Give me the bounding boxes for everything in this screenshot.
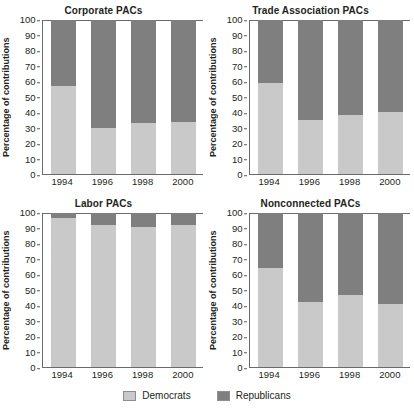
x-tick-label: 1996 [297, 368, 322, 382]
chart-legend: DemocratsRepublicans [0, 390, 414, 401]
y-tick-label: 100 [227, 208, 247, 218]
y-axis-label: Percentage of contributions [206, 22, 220, 172]
x-tick-label: 2000 [170, 368, 195, 382]
y-tick-label: 0 [237, 363, 247, 373]
x-axis-ticks: 1994199619982000 [249, 368, 410, 384]
y-tick-label: 10 [25, 348, 40, 358]
y-tick-label: 90 [25, 224, 40, 234]
bar-segment-republicans [91, 20, 116, 128]
bar-segment-democrats [51, 218, 76, 367]
stacked-bar [258, 213, 283, 367]
y-tick-label: 30 [232, 124, 247, 134]
x-axis-ticks: 1994199619982000 [249, 175, 410, 191]
plot-area: 1009080706050403020100 1994199619982000 [16, 20, 203, 175]
y-axis-ticks: 1009080706050403020100 [16, 20, 40, 175]
stacked-bar [338, 20, 363, 174]
stacked-bar [378, 20, 403, 174]
plot-frame [249, 20, 410, 175]
x-tick-label: 1998 [130, 368, 155, 382]
y-tick-label: 60 [232, 77, 247, 87]
stacked-bar [171, 20, 196, 174]
stacked-bar [298, 20, 323, 174]
legend-label: Democrats [142, 390, 190, 401]
plot-frame [249, 213, 410, 368]
y-tick-label: 80 [232, 46, 247, 56]
x-tick-label: 2000 [170, 175, 195, 189]
y-tick-label: 10 [232, 348, 247, 358]
stacked-bar [338, 213, 363, 367]
stacked-bar [258, 20, 283, 174]
bar-segment-republicans [171, 213, 196, 225]
bar-segment-republicans [338, 213, 363, 295]
panel-corporate-pacs: Corporate PACs Percentage of contributio… [0, 0, 207, 193]
y-axis-ticks: 1009080706050403020100 [223, 20, 247, 175]
y-tick-label: 90 [232, 224, 247, 234]
y-tick-label: 20 [232, 332, 247, 342]
bar-segment-democrats [258, 268, 283, 367]
y-axis-label: Percentage of contributions [0, 22, 13, 172]
bar-segment-democrats [171, 122, 196, 174]
y-tick-label: 30 [232, 317, 247, 327]
bar-segment-democrats [338, 295, 363, 367]
plot-frame [42, 213, 203, 368]
y-tick-label: 20 [25, 139, 40, 149]
bar-segment-republicans [298, 213, 323, 302]
y-tick-label: 0 [30, 363, 40, 373]
bar-segment-republicans [258, 20, 283, 83]
stacked-bar [91, 213, 116, 367]
bar-series [43, 213, 203, 367]
bar-segment-democrats [171, 225, 196, 367]
x-tick-label: 2000 [377, 175, 402, 189]
bar-segment-republicans [378, 20, 403, 112]
bar-segment-republicans [258, 213, 283, 268]
y-tick-label: 80 [25, 46, 40, 56]
y-tick-label: 30 [25, 124, 40, 134]
x-tick-label: 1994 [257, 368, 282, 382]
y-axis-label: Percentage of contributions [206, 215, 220, 365]
bar-segment-democrats [91, 225, 116, 367]
panel-nonconnected-pacs: Nonconnected PACs Percentage of contribu… [207, 193, 414, 386]
y-tick-label: 0 [237, 170, 247, 180]
y-tick-label: 40 [25, 108, 40, 118]
stacked-bar [378, 213, 403, 367]
bar-segment-republicans [131, 20, 156, 123]
x-axis-ticks: 1994199619982000 [42, 175, 203, 191]
y-tick-label: 0 [30, 170, 40, 180]
bar-segment-democrats [51, 86, 76, 174]
legend-label: Republicans [236, 390, 291, 401]
bar-series [250, 213, 410, 367]
bar-segment-republicans [171, 20, 196, 122]
y-tick-label: 60 [232, 270, 247, 280]
bar-segment-democrats [298, 120, 323, 174]
bar-segment-democrats [131, 227, 156, 367]
bar-segment-democrats [258, 83, 283, 174]
y-tick-label: 100 [20, 15, 40, 25]
bar-segment-republicans [338, 20, 363, 115]
bar-series [250, 20, 410, 174]
x-tick-label: 1996 [90, 368, 115, 382]
y-tick-label: 40 [25, 301, 40, 311]
x-tick-label: 1998 [337, 368, 362, 382]
y-tick-label: 70 [232, 62, 247, 72]
y-tick-label: 100 [20, 208, 40, 218]
y-tick-label: 80 [25, 239, 40, 249]
y-tick-label: 60 [25, 77, 40, 87]
bar-segment-republicans [91, 213, 116, 225]
y-tick-label: 60 [25, 270, 40, 280]
bar-segment-democrats [298, 302, 323, 367]
legend-swatch [217, 391, 230, 401]
x-tick-label: 2000 [377, 368, 402, 382]
panel-grid: Corporate PACs Percentage of contributio… [0, 0, 414, 386]
y-tick-label: 20 [25, 332, 40, 342]
x-tick-label: 1994 [50, 368, 75, 382]
y-axis-label: Percentage of contributions [0, 215, 13, 365]
panel-trade-association-pacs: Trade Association PACs Percentage of con… [207, 0, 414, 193]
y-tick-label: 50 [232, 286, 247, 296]
plot-area: 1009080706050403020100 1994199619982000 [223, 20, 410, 175]
y-tick-label: 10 [25, 155, 40, 165]
legend-item: Republicans [217, 390, 291, 401]
y-axis-ticks: 1009080706050403020100 [223, 213, 247, 368]
legend-item: Democrats [123, 390, 190, 401]
bar-segment-democrats [131, 123, 156, 174]
bar-segment-democrats [338, 115, 363, 174]
